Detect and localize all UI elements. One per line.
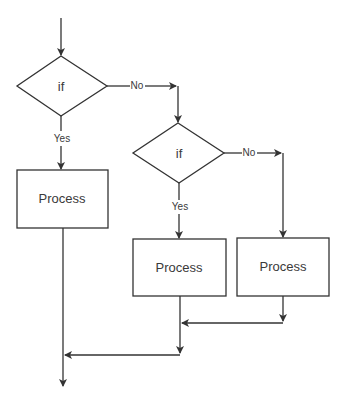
decision-node-1[interactable]: if: [17, 56, 107, 116]
flowchart-canvas: if Yes No Process if Yes No Process: [0, 0, 346, 398]
edge-process2-merge: [65, 296, 180, 355]
edge-process3-merge: [182, 296, 283, 323]
process-3-label: Process: [260, 259, 307, 274]
decision-2-label: if: [176, 146, 183, 161]
process-2-label: Process: [156, 260, 203, 275]
no-label-1: No: [131, 80, 144, 91]
process-node-2[interactable]: Process: [133, 239, 226, 296]
yes-label-2: Yes: [172, 201, 188, 212]
edge-decision2-yes: Yes: [172, 183, 188, 238]
decision-1-label: if: [58, 79, 65, 94]
edge-decision1-no: No: [107, 80, 178, 122]
edge-decision2-no: No: [224, 147, 283, 237]
decision-node-2[interactable]: if: [133, 123, 224, 183]
process-node-3[interactable]: Process: [237, 238, 329, 296]
edge-decision1-yes: Yes: [54, 116, 70, 169]
process-1-label: Process: [39, 191, 86, 206]
no-label-2: No: [243, 147, 256, 158]
yes-label-1: Yes: [54, 133, 70, 144]
process-node-1[interactable]: Process: [17, 170, 108, 228]
